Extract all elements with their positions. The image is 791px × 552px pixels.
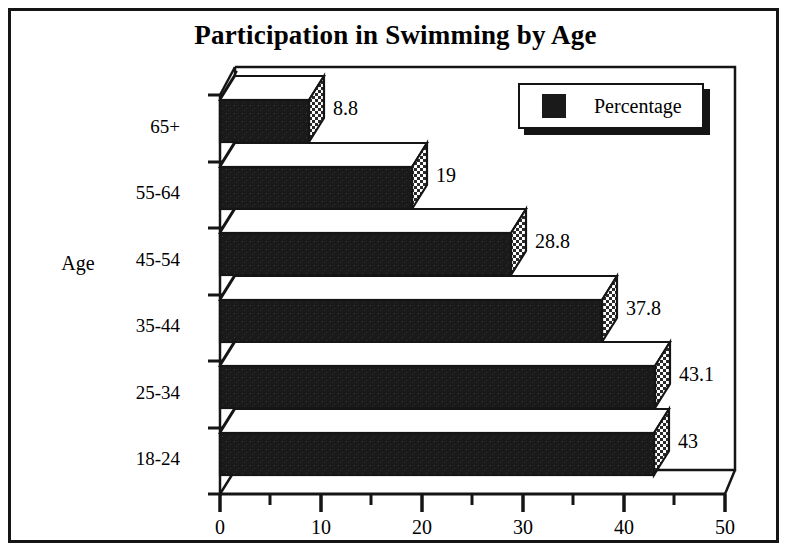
x-axis-tick-0: 0: [198, 516, 242, 538]
bar-value-label-55-64: 19: [436, 164, 456, 186]
y-axis-label-55-64: 55-64: [90, 182, 180, 204]
legend-swatch-percentage: [542, 94, 566, 118]
bar-value-label-18-24: 43: [678, 430, 698, 452]
y-axis-label-25-34: 25-34: [90, 382, 180, 404]
x-axis-tick-40: 40: [602, 516, 646, 538]
y-axis-label-65plus: 65+: [90, 116, 180, 138]
chart-container: Participation in Swimming by Age: [0, 0, 791, 552]
bar-value-label-45-54: 28.8: [535, 230, 570, 252]
y-axis-label-35-44: 35-44: [90, 315, 180, 337]
bar-25-34: [220, 342, 670, 408]
bar-35-44: [220, 276, 617, 342]
bar-value-label-25-34: 43.1: [679, 363, 714, 385]
y-axis-label-18-24: 18-24: [90, 448, 180, 470]
x-axis-tick-50: 50: [703, 516, 747, 538]
y-axis-title: Age: [33, 252, 123, 274]
bar-55-64: [220, 143, 427, 209]
bar-65plus: [220, 76, 324, 142]
bar-value-label-35-44: 37.8: [626, 297, 661, 319]
x-axis-ticks: [220, 494, 725, 512]
x-axis-tick-20: 20: [400, 516, 444, 538]
x-axis-tick-10: 10: [299, 516, 343, 538]
legend-label-percentage: Percentage: [594, 95, 682, 117]
x-axis-tick-30: 30: [501, 516, 545, 538]
bar-value-label-65plus: 8.8: [333, 97, 358, 119]
legend: Percentage: [518, 83, 704, 129]
bar-45-54: [220, 209, 526, 275]
bar-18-24: [220, 409, 669, 475]
